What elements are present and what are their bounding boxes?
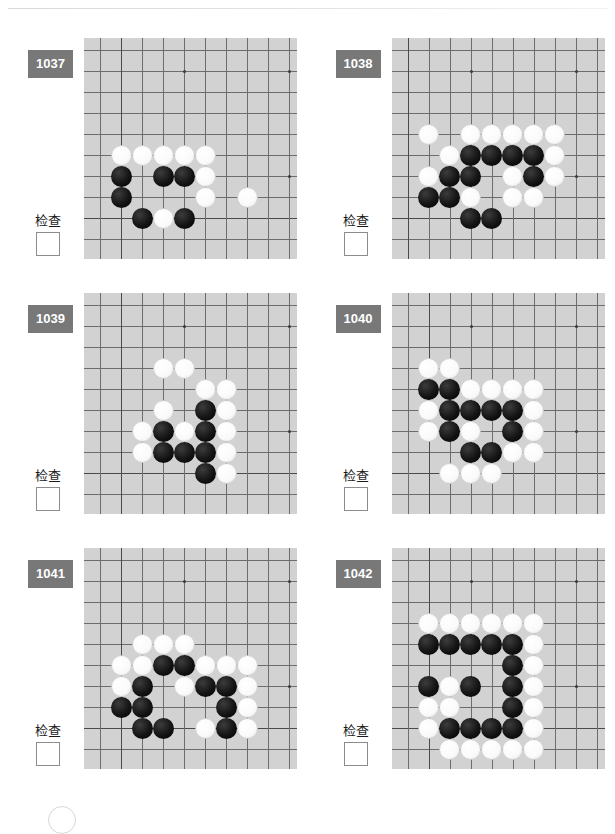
- white-stone: [544, 145, 565, 166]
- white-stone: [195, 655, 216, 676]
- problem-1040: 1040检查: [308, 279, 615, 534]
- problem-label-column: 1038检查: [336, 24, 392, 259]
- problem-1041: 1041检查: [0, 534, 308, 789]
- black-stone: [502, 676, 523, 697]
- hoshi-point: [575, 685, 578, 688]
- white-stone: [439, 463, 460, 484]
- check-checkbox[interactable]: [36, 487, 60, 511]
- white-stone: [460, 124, 481, 145]
- go-board: [84, 293, 297, 514]
- white-stone: [544, 124, 565, 145]
- black-stone: [481, 718, 502, 739]
- white-stone: [523, 124, 544, 145]
- black-stone: [132, 676, 153, 697]
- black-stone: [418, 379, 439, 400]
- white-stone: [195, 187, 216, 208]
- white-stone: [237, 187, 258, 208]
- problem-1038: 1038检查: [308, 24, 615, 279]
- black-stone: [153, 421, 174, 442]
- white-stone: [523, 400, 544, 421]
- white-stone: [523, 421, 544, 442]
- hoshi-point: [575, 70, 578, 73]
- white-stone: [153, 145, 174, 166]
- hoshi-point: [288, 430, 291, 433]
- grid-line-vertical: [268, 548, 269, 769]
- white-stone: [216, 655, 237, 676]
- white-stone: [502, 379, 523, 400]
- grid-line-horizontal: [392, 494, 605, 495]
- grid-line-horizontal: [392, 92, 605, 93]
- black-stone: [439, 166, 460, 187]
- grid-line-horizontal: [392, 665, 605, 666]
- black-stone: [460, 718, 481, 739]
- go-board: [84, 548, 297, 769]
- check-checkbox[interactable]: [344, 487, 368, 511]
- check-checkbox[interactable]: [36, 742, 60, 766]
- white-stone: [195, 166, 216, 187]
- check-checkbox[interactable]: [344, 742, 368, 766]
- white-stone: [418, 166, 439, 187]
- white-stone: [523, 634, 544, 655]
- white-stone: [460, 379, 481, 400]
- check-label: 检查: [35, 720, 61, 739]
- problem-1037: 1037检查: [0, 24, 308, 279]
- grid-line-vertical: [247, 293, 248, 514]
- grid-line-horizontal: [84, 347, 297, 348]
- white-stone: [153, 358, 174, 379]
- white-stone: [216, 421, 237, 442]
- white-stone: [523, 676, 544, 697]
- black-stone: [111, 166, 132, 187]
- black-stone: [481, 145, 502, 166]
- grid-line-horizontal: [392, 581, 605, 582]
- problem-1042: 1042检查: [308, 534, 615, 789]
- white-stone: [502, 187, 523, 208]
- black-stone: [439, 187, 460, 208]
- grid-line-vertical: [597, 293, 598, 514]
- problem-label-column: 1039检查: [28, 279, 84, 514]
- grid-line-horizontal: [392, 71, 605, 72]
- grid-line-horizontal: [84, 389, 297, 390]
- white-stone: [481, 124, 502, 145]
- white-stone: [174, 358, 195, 379]
- black-stone: [460, 145, 481, 166]
- black-stone: [216, 697, 237, 718]
- white-stone: [439, 676, 460, 697]
- black-stone: [174, 208, 195, 229]
- go-board: [84, 38, 297, 259]
- black-stone: [111, 187, 132, 208]
- check-label: 检查: [35, 210, 61, 229]
- black-stone: [153, 655, 174, 676]
- white-stone: [481, 739, 502, 760]
- hoshi-point: [183, 580, 186, 583]
- white-stone: [439, 739, 460, 760]
- grid-line-horizontal: [392, 239, 605, 240]
- check-label: 检查: [343, 210, 369, 229]
- black-stone: [111, 697, 132, 718]
- check-checkbox[interactable]: [36, 232, 60, 256]
- black-stone: [481, 442, 502, 463]
- white-stone: [418, 400, 439, 421]
- problem-row: 1037检查1038检查: [0, 24, 615, 279]
- grid-line-horizontal: [84, 494, 297, 495]
- hoshi-point: [470, 325, 473, 328]
- grid-line-vertical: [429, 38, 430, 259]
- white-stone: [439, 358, 460, 379]
- black-stone: [174, 655, 195, 676]
- white-stone: [153, 208, 174, 229]
- white-stone: [460, 421, 481, 442]
- grid-line-horizontal: [84, 728, 297, 729]
- black-stone: [195, 421, 216, 442]
- white-stone: [216, 442, 237, 463]
- white-stone: [502, 124, 523, 145]
- white-stone: [439, 145, 460, 166]
- grid-line-horizontal: [84, 410, 297, 411]
- white-stone: [523, 379, 544, 400]
- black-stone: [481, 208, 502, 229]
- white-stone: [418, 697, 439, 718]
- black-stone: [481, 400, 502, 421]
- check-checkbox[interactable]: [344, 232, 368, 256]
- black-stone: [195, 400, 216, 421]
- hoshi-point: [183, 70, 186, 73]
- hoshi-point: [470, 580, 473, 583]
- grid-line-vertical: [226, 38, 227, 259]
